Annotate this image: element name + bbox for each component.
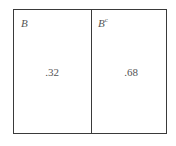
region-probability-b: .32	[32, 66, 72, 78]
region-label-sup: c	[105, 16, 108, 24]
sample-space-box: B .32 Bc .68	[13, 9, 167, 134]
region-probability-b-complement: .68	[111, 66, 151, 78]
region-label-b-complement: Bc	[98, 16, 108, 29]
region-label-text: B	[21, 17, 28, 29]
partition-divider	[91, 10, 92, 133]
region-label-b: B	[21, 16, 28, 29]
region-label-text: B	[98, 17, 105, 29]
